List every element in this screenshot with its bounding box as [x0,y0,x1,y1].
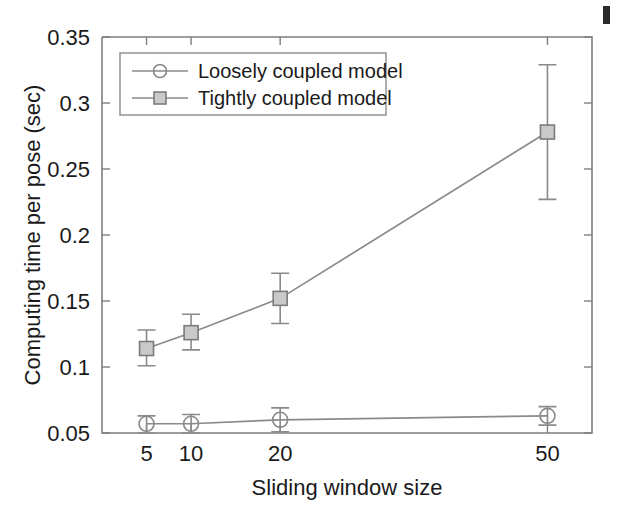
x-tick-label: 5 [140,441,152,466]
y-tick-label: 0.1 [59,355,90,380]
y-axis-title: Computing time per pose (sec) [20,85,45,386]
y-tick-label: 0.15 [47,289,90,314]
y-tick-label: 0.05 [47,421,90,446]
y-tick-label: 0.2 [59,223,90,248]
legend-label: Tightly coupled model [198,87,392,109]
x-tick-label: 10 [179,441,203,466]
series-line [147,132,548,348]
page-scan-artifact [603,6,610,24]
x-axis-title: Sliding window size [252,475,443,500]
legend-label: Loosely coupled model [198,60,403,82]
x-tick-label: 20 [268,441,292,466]
legend-marker-square-icon [154,92,166,104]
data-point-square [273,291,287,305]
y-tick-label: 0.25 [47,157,90,182]
series-line [147,416,548,424]
figure-container: 0.050.10.150.20.250.30.355102050Sliding … [0,0,623,513]
data-point-square [540,125,554,139]
series-loosely-coupled [138,407,557,433]
data-point-square [140,342,154,356]
computing-time-chart: 0.050.10.150.20.250.30.355102050Sliding … [0,0,623,513]
y-tick-label: 0.35 [47,25,90,50]
y-tick-label: 0.3 [59,91,90,116]
x-tick-label: 50 [535,441,559,466]
data-point-square [184,326,198,340]
